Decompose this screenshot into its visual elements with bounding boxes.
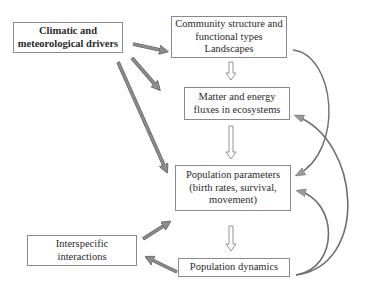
arrow-climatic-to-community	[133, 44, 165, 51]
node-community-structure: Community structure and functional types…	[171, 16, 287, 58]
node-interspecific-interactions: Interspecific interactions	[27, 235, 137, 266]
node-interspecific-interactions-label: Interspecific interactions	[56, 238, 108, 263]
node-population-dynamics: Population dynamics	[178, 258, 290, 277]
arrow-climatic-to-popparams	[118, 62, 166, 170]
arrow-popdyn-to-interspecific	[148, 258, 177, 272]
hollow-arrow-matter-to-popparams	[226, 126, 236, 159]
curve-popdyn-to-matter	[296, 116, 348, 275]
hollow-arrow-community-to-matter	[226, 62, 236, 80]
node-climatic-drivers-label: Climatic and meteorological drivers	[18, 25, 118, 50]
node-matter-energy-fluxes-label: Matter and energy fluxes in ecosystems	[194, 91, 281, 116]
node-population-parameters: Population parameters (birth rates, surv…	[175, 165, 291, 211]
curve-popdyn-to-popparams	[296, 191, 329, 275]
arrow-interspecific-to-popparams	[143, 223, 168, 239]
node-population-dynamics-label: Population dynamics	[190, 261, 278, 274]
node-matter-energy-fluxes: Matter and energy fluxes in ecosystems	[184, 87, 290, 120]
node-community-structure-label: Community structure and functional types…	[175, 18, 282, 56]
hollow-arrow-popparams-to-popdyn	[226, 226, 236, 251]
node-population-parameters-label: Population parameters (birth rates, surv…	[186, 169, 280, 207]
node-climatic-drivers: Climatic and meteorological drivers	[13, 22, 123, 53]
arrow-climatic-to-matter	[132, 58, 158, 88]
curve-community-to-popparams	[293, 50, 329, 175]
